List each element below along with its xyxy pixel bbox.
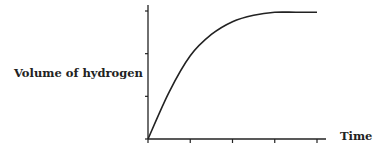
data-curve [148, 12, 317, 139]
chart-plot [0, 0, 380, 155]
